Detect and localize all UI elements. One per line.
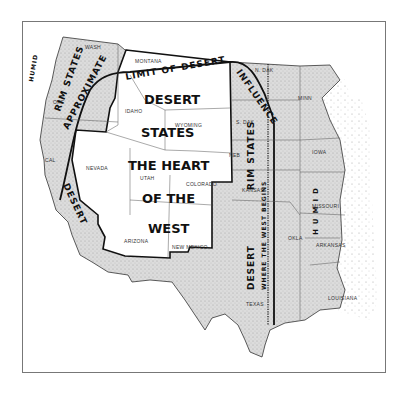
label-where-west-begins: WHERE THE WEST BEGINS [260,181,267,290]
label-louisiana: LOUISIANA [328,295,358,301]
label-nevada: NEVADA [86,165,108,171]
label-heart-3: WEST [148,221,190,236]
label-cal: CAL [45,157,56,163]
label-desert-states-2: STATES [141,125,194,140]
label-arizona: ARIZONA [124,238,149,244]
label-arkansas: ARKANSAS [316,242,346,248]
label-heart-1: THE HEART [128,158,209,173]
label-idaho: IDAHO [125,108,142,114]
label-heart-2: OF THE [142,191,195,206]
label-desert-states-1: DESERT [144,92,200,107]
western-us-map: WASH ORE CAL NEVADA IDAHO MONTANA WYOMIN… [0,0,408,393]
label-east-rim-states: RIM STATES [246,121,256,190]
label-montana: MONTANA [135,58,162,64]
label-neb: NEB [229,152,241,158]
label-new-mexico: NEW MEXICO [172,244,208,250]
label-iowa: IOWA [312,149,327,155]
label-humid-west: HUMID [27,53,39,82]
label-texas: TEXAS [246,301,264,307]
label-colorado: COLORADO [186,181,217,187]
label-wash: WASH [85,44,101,50]
label-east-desert: DESERT [246,245,256,290]
label-minn: MINN [298,95,312,101]
label-okla: OKLA [288,235,303,241]
label-n-dak: N. DAK [255,67,274,73]
label-utah: UTAH [140,175,155,181]
label-humid-east: HUMID [312,183,320,235]
